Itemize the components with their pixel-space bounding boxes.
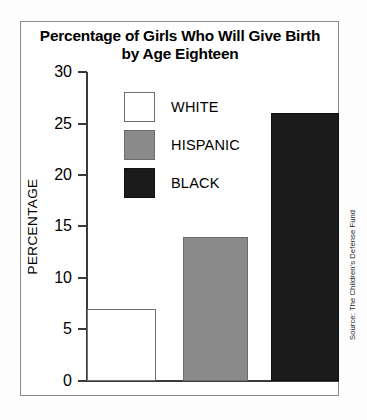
plot-area: 0 5 10 15 20 25 30 PERCENTAGE WHITE HISP… — [0, 0, 367, 420]
y-tick-label-0: 0 — [32, 373, 72, 389]
legend-label-white: WHITE — [171, 99, 219, 115]
legend-swatch-white — [124, 92, 155, 122]
y-tick-label-30: 30 — [32, 64, 72, 80]
y-tick-mark-5 — [78, 328, 87, 330]
legend-swatch-black — [124, 168, 155, 198]
legend-item-black: BLACK — [124, 164, 240, 202]
y-axis-title: PERCENTAGE — [25, 167, 40, 287]
chart-figure: Percentage of Girls Who Will Give Birth … — [0, 0, 367, 420]
bar-black — [271, 113, 339, 381]
legend-item-white: WHITE — [124, 88, 240, 126]
legend-swatch-hispanic — [124, 130, 155, 160]
legend-item-hispanic: HISPANIC — [124, 126, 240, 164]
y-tick-label-25: 25 — [32, 116, 72, 132]
y-tick-mark-0 — [78, 380, 87, 382]
bar-hispanic — [183, 237, 248, 381]
y-tick-mark-20 — [78, 174, 87, 176]
bar-white — [87, 309, 156, 381]
y-tick-label-5: 5 — [32, 321, 72, 337]
y-tick-mark-25 — [78, 123, 87, 125]
legend-label-black: BLACK — [171, 175, 220, 191]
y-tick-mark-10 — [78, 277, 87, 279]
y-tick-mark-15 — [78, 225, 87, 227]
legend: WHITE HISPANIC BLACK — [124, 88, 240, 202]
source-note: Source: The Children's Defense Fund — [348, 210, 357, 340]
legend-label-hispanic: HISPANIC — [171, 137, 240, 153]
y-tick-mark-30 — [78, 71, 87, 73]
